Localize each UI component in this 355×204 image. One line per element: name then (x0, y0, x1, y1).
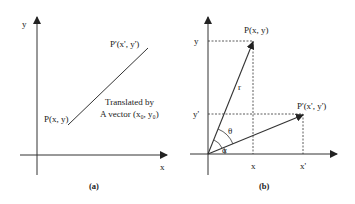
panel-a-y-label: y (22, 19, 27, 29)
point-p-prime-label: P'(x', y') (110, 39, 139, 49)
annotation-line2: A vector (x₀, y₀) (100, 109, 159, 119)
point-p-prime-label-b: P'(x', y') (297, 101, 326, 111)
panel-b: y y' P(x, y) P'(x', y') r θ α x x' (b) (190, 17, 337, 191)
annotation-line1: Translated by (105, 97, 154, 107)
vector-p (208, 42, 253, 154)
point-p-label: P(x, y) (44, 114, 69, 124)
panel-a-caption: (a) (89, 181, 99, 191)
total-angle-arc (214, 140, 222, 148)
x-prime-tick-label: x' (300, 161, 307, 171)
y-tick-label: y (194, 36, 199, 46)
panel-a-x-label: x (160, 162, 165, 172)
point-p-label-b: P(x, y) (244, 25, 269, 35)
alpha-label: α (222, 145, 227, 155)
y-prime-tick-label: y' (193, 109, 200, 119)
panel-a: y x P'(x', y') P(x, y) Translated by A v… (20, 17, 167, 191)
diagram-canvas: y x P'(x', y') P(x, y) Translated by A v… (0, 0, 355, 204)
theta-label: θ (228, 126, 232, 136)
radius-label: r (238, 82, 241, 92)
x-tick-label: x (251, 161, 256, 171)
panel-b-caption: (b) (259, 181, 270, 191)
